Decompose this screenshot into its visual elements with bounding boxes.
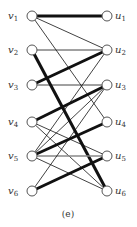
node-v6 <box>27 186 37 196</box>
label-u4: u4 <box>115 116 126 129</box>
label-v4: v4 <box>8 116 19 129</box>
edge-v1-u2 <box>32 16 107 50</box>
label-u5: u5 <box>115 150 126 163</box>
node-u1 <box>102 11 112 21</box>
label-v1: v1 <box>8 10 18 23</box>
label-v3: v3 <box>8 79 18 92</box>
node-u3 <box>102 80 112 90</box>
node-v3 <box>27 80 37 90</box>
edge-v3-u2 <box>32 50 107 85</box>
edge-layer <box>32 16 107 191</box>
node-v4 <box>27 117 37 127</box>
label-v6: v6 <box>8 185 19 198</box>
figure-caption: (e) <box>62 209 74 219</box>
node-v2 <box>27 45 37 55</box>
label-u3: u3 <box>115 79 126 92</box>
node-u6 <box>102 186 112 196</box>
label-u1: u1 <box>115 10 126 23</box>
node-v5 <box>27 151 37 161</box>
node-u5 <box>102 151 112 161</box>
node-v1 <box>27 11 37 21</box>
node-u2 <box>102 45 112 55</box>
bipartite-graph: v1v2v3v4v5v6u1u2u3u4u5u6 (e) <box>0 0 137 227</box>
label-u6: u6 <box>115 185 126 198</box>
label-u2: u2 <box>115 44 126 57</box>
label-v5: v5 <box>8 150 18 163</box>
label-v2: v2 <box>8 44 18 57</box>
node-u4 <box>102 117 112 127</box>
edge-v5-u3 <box>32 85 107 156</box>
